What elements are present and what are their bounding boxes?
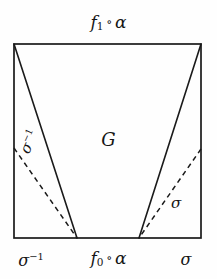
bottom-left-sigma-inverse-label: σ−1 [0,252,62,269]
right-dashed-ray [139,149,201,238]
bottom-right-sigma-label: σ [155,252,217,268]
inner-right-sigma-label: σ [171,196,181,211]
top-boundary-label: f1∘α [0,14,217,31]
figure-canvas: f1∘α G σ−1 σ σ−1 f0∘α σ [0,0,217,279]
left-dashed-ray [14,148,77,238]
bottom-center-label: f0∘α [62,250,155,267]
